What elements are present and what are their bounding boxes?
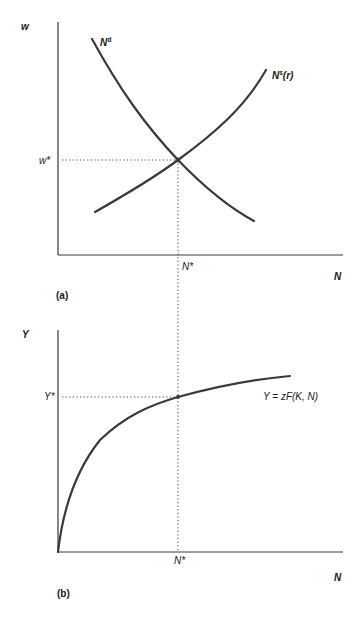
labor-demand-label: Nd xyxy=(100,36,112,48)
labor-demand-curve xyxy=(92,39,254,221)
panel-label-a: (a) xyxy=(56,290,68,301)
x-axis-label-n-a: N xyxy=(334,271,342,282)
y-axis-label-y: Y xyxy=(22,329,30,340)
equilibrium-employment-label-b: N* xyxy=(174,555,186,566)
equilibrium-output-label: Y* xyxy=(44,391,56,402)
equilibrium-wage-label: w* xyxy=(39,155,51,166)
labor-supply-curve xyxy=(95,70,266,212)
production-function-label: Y = zF(K, N) xyxy=(263,391,318,402)
panel-a: w Nd Ns(r) w* N* N (a) xyxy=(21,21,343,301)
production-function-curve xyxy=(58,376,290,552)
panel-b: Y Y = zF(K, N) Y* N* N (b) xyxy=(22,329,343,599)
panel-label-b: (b) xyxy=(57,588,70,599)
equilibrium-employment-label-a: N* xyxy=(182,261,194,272)
y-axis-label-w: w xyxy=(21,21,30,32)
x-axis-label-n-b: N xyxy=(334,572,342,583)
labor-market-diagram: w Nd Ns(r) w* N* N (a) Y Y = zF(K, N) Y*… xyxy=(0,0,360,624)
labor-supply-label: Ns(r) xyxy=(272,69,294,81)
equilibrium-point-b xyxy=(176,395,180,399)
